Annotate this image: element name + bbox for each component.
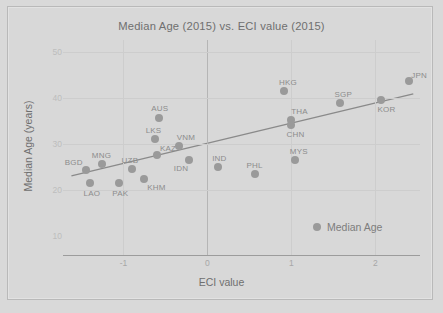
chart-title: Median Age (2015) vs. ECI value (2015) bbox=[0, 20, 443, 32]
data-point-label-tha: THA bbox=[291, 106, 308, 115]
data-point-label-lao: LAO bbox=[84, 188, 101, 197]
data-point-hkg[interactable] bbox=[280, 87, 288, 95]
x-tick-label: 0 bbox=[205, 258, 210, 268]
x-tick-label: -1 bbox=[120, 258, 128, 268]
data-point-sgp[interactable] bbox=[336, 99, 344, 107]
data-point-label-sgp: SGP bbox=[334, 90, 352, 99]
x-tick-label: 2 bbox=[373, 258, 378, 268]
data-point-chn[interactable] bbox=[287, 121, 295, 129]
legend-label: Median Age bbox=[327, 221, 382, 233]
data-point-phl[interactable] bbox=[251, 170, 259, 178]
data-point-label-kor: KOR bbox=[378, 105, 396, 114]
chart-legend: Median Age bbox=[313, 221, 382, 233]
gridline-x--1 bbox=[123, 40, 124, 255]
data-point-bgd[interactable] bbox=[82, 166, 90, 174]
gridline-y-50 bbox=[63, 52, 420, 53]
data-point-mys[interactable] bbox=[291, 156, 299, 164]
data-point-ind[interactable] bbox=[214, 163, 222, 171]
x-tick-label: 1 bbox=[289, 258, 294, 268]
data-point-label-uzb: UZB bbox=[122, 155, 139, 164]
y-tick-label: 30 bbox=[48, 139, 62, 149]
data-point-label-aus: AUS bbox=[151, 103, 168, 112]
data-point-label-mng: MNG bbox=[92, 150, 111, 159]
y-tick-label: 40 bbox=[48, 93, 62, 103]
data-point-label-kaz: KAZ bbox=[160, 144, 176, 153]
data-point-label-idn: IDN bbox=[174, 163, 188, 172]
data-point-label-bgd: BGD bbox=[65, 157, 83, 166]
data-point-label-mys: MYS bbox=[290, 146, 308, 155]
data-point-label-khm: KHM bbox=[147, 182, 165, 191]
data-point-label-ind: IND bbox=[212, 153, 226, 162]
data-point-label-hkg: HKG bbox=[279, 78, 297, 87]
data-point-label-vnm: VNM bbox=[177, 133, 195, 142]
data-point-mng[interactable] bbox=[98, 160, 106, 168]
data-point-aus[interactable] bbox=[155, 114, 163, 122]
data-point-uzb[interactable] bbox=[128, 165, 136, 173]
y-tick-label: 20 bbox=[48, 185, 62, 195]
data-point-kor[interactable] bbox=[377, 96, 385, 104]
data-point-pak[interactable] bbox=[115, 179, 123, 187]
y-axis-title: Median Age (years) bbox=[22, 71, 34, 221]
data-point-lks[interactable] bbox=[151, 135, 159, 143]
data-point-label-lks: LKS bbox=[146, 126, 162, 135]
y-tick-label: 10 bbox=[48, 231, 62, 241]
data-point-vnm[interactable] bbox=[175, 142, 183, 150]
data-point-label-jpn: JPN bbox=[411, 71, 427, 80]
gridline-y-30 bbox=[63, 144, 420, 145]
legend-marker-icon bbox=[313, 223, 321, 231]
data-point-lao[interactable] bbox=[86, 179, 94, 187]
gridline-y-40 bbox=[63, 98, 420, 99]
data-point-label-phl: PHL bbox=[246, 160, 262, 169]
data-point-label-chn: CHN bbox=[287, 129, 305, 138]
figure-container: Median Age (2015) vs. ECI value (2015) M… bbox=[0, 0, 443, 313]
gridline-x-0 bbox=[207, 40, 208, 255]
x-axis-line bbox=[63, 255, 420, 256]
data-point-label-pak: PAK bbox=[112, 189, 128, 198]
y-tick-label: 50 bbox=[48, 47, 62, 57]
x-axis-title: ECI value bbox=[0, 276, 443, 288]
